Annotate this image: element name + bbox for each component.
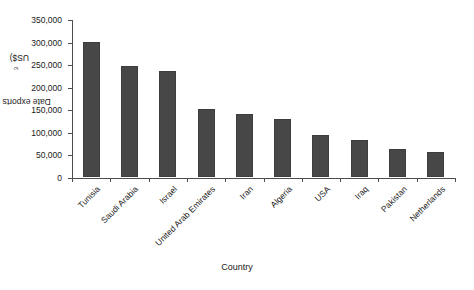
y-axis-tick: 200,000 bbox=[68, 88, 72, 89]
x-axis-tick bbox=[340, 178, 341, 182]
x-axis-category-label: Saudi Arabia bbox=[99, 184, 140, 225]
bar bbox=[389, 149, 406, 177]
y-axis-title-suffix: US$) bbox=[10, 52, 29, 62]
x-axis-tick bbox=[417, 178, 418, 182]
x-axis-category-label: Israel bbox=[157, 184, 179, 206]
plot-area: 050,000100,000150,000200,000250,000300,0… bbox=[72, 20, 455, 178]
x-axis-tick bbox=[378, 178, 379, 182]
y-axis-tick-label: 100,000 bbox=[31, 128, 62, 138]
bar bbox=[198, 109, 215, 177]
bar bbox=[236, 114, 253, 177]
y-axis-tick: 100,000 bbox=[68, 133, 72, 134]
y-axis-tick-label: 300,000 bbox=[31, 38, 62, 48]
bar-chart: Date exports (103 US$) 050,000100,000150… bbox=[0, 0, 474, 290]
y-axis-tick: 50,000 bbox=[68, 155, 72, 156]
x-axis-category-label: Iran bbox=[238, 184, 255, 201]
x-axis-tick bbox=[302, 178, 303, 182]
y-axis-tick: 150,000 bbox=[68, 110, 72, 111]
bar bbox=[83, 42, 100, 177]
y-axis-line bbox=[72, 20, 73, 179]
y-axis-tick-label: 200,000 bbox=[31, 83, 62, 93]
x-axis-category-label: Tunisia bbox=[76, 184, 102, 210]
bar bbox=[159, 71, 176, 177]
y-axis-tick: 250,000 bbox=[68, 65, 72, 66]
bar bbox=[351, 140, 368, 177]
y-axis-tick-label: 150,000 bbox=[31, 105, 62, 115]
x-axis-tick bbox=[264, 178, 265, 182]
bar bbox=[274, 119, 291, 177]
x-axis-category-label: USA bbox=[313, 184, 332, 203]
y-axis-tick-label: 350,000 bbox=[31, 15, 62, 25]
bar bbox=[312, 135, 329, 177]
x-axis-tick bbox=[187, 178, 188, 182]
x-axis-tick bbox=[455, 178, 456, 182]
y-axis-tick: 350,000 bbox=[68, 20, 72, 21]
bar bbox=[427, 152, 444, 177]
x-axis-category-label: Netherlands bbox=[407, 184, 446, 223]
y-axis-tick: 300,000 bbox=[68, 43, 72, 44]
x-axis-tick bbox=[149, 178, 150, 182]
x-axis-tick bbox=[72, 178, 73, 182]
y-axis-title-exponent: 3 bbox=[14, 67, 20, 70]
x-axis-category-label: Pakistan bbox=[378, 184, 408, 214]
x-axis-category-label: Iraq bbox=[353, 184, 370, 201]
y-axis-tick-label: 50,000 bbox=[36, 150, 62, 160]
y-axis-title: Date exports (103 US$) bbox=[8, 0, 30, 180]
y-axis-tick-label: 250,000 bbox=[31, 60, 62, 70]
bar bbox=[121, 66, 138, 177]
y-axis-tick-label: 0 bbox=[57, 173, 62, 183]
x-axis-tick bbox=[110, 178, 111, 182]
x-axis-title: Country bbox=[0, 262, 474, 272]
x-axis-tick bbox=[225, 178, 226, 182]
x-axis-category-label: Algeria bbox=[268, 184, 294, 210]
